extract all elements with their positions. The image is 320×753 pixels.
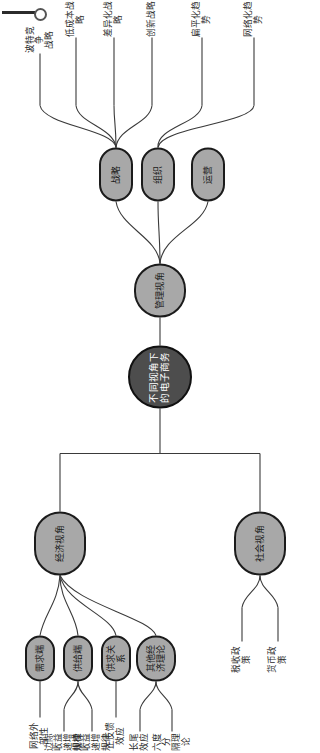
leaf-differentiation-strategy: 差异化战略	[102, 0, 126, 37]
leaf-six-degrees-theory: 六度分 隔理论	[158, 729, 186, 753]
leaf-innovation-strategy: 创新战略	[140, 0, 164, 37]
mindmap-canvas: 不同视角下 的电子商务 经济视角 需求端 网络外部性 供给端 边际收益 递增规律…	[0, 0, 320, 753]
diagram-stage: 不同视角下 的电子商务 经济视角 需求端 网络外部性 供给端 边际收益 递增规律…	[0, 0, 320, 753]
leaf-flattening-trend: 扁平化趋势	[190, 0, 214, 37]
node-demand-side[interactable]: 需求端	[25, 635, 55, 681]
node-organization[interactable]: 组织	[141, 147, 175, 201]
leaf-increasing-returns-to-scale: 规模收益 递增规律	[78, 729, 106, 753]
leaf-tax-policy: 税收政策	[230, 641, 254, 677]
node-supply-side[interactable]: 供给端	[63, 635, 93, 681]
branch-node-economic[interactable]: 经济视角	[34, 511, 86, 575]
branch-node-management[interactable]: 管理视角	[134, 263, 186, 317]
leaf-networking-trend: 网络化趋势	[242, 0, 266, 37]
leaf-positive-feedback-effect: 正反馈效应	[104, 717, 128, 753]
node-strategy[interactable]: 战略	[99, 147, 133, 201]
leaf-porter-competitive-strategy: 波特竞争 战略	[26, 25, 54, 53]
node-other-economic-theories[interactable]: 其他经济理论	[136, 635, 176, 681]
leaf-low-cost-strategy: 低成本战略	[64, 0, 88, 37]
branch-node-social[interactable]: 社会视角	[234, 511, 286, 575]
node-operations[interactable]: 运营	[191, 147, 225, 201]
leaf-monetary-policy: 货币政策	[266, 641, 290, 677]
node-supply-demand-relation[interactable]: 供求关系	[101, 635, 131, 681]
root-node[interactable]: 不同视角下 的电子商务	[128, 345, 192, 408]
leaf-long-tail-effect: 长尾效应	[128, 729, 152, 753]
